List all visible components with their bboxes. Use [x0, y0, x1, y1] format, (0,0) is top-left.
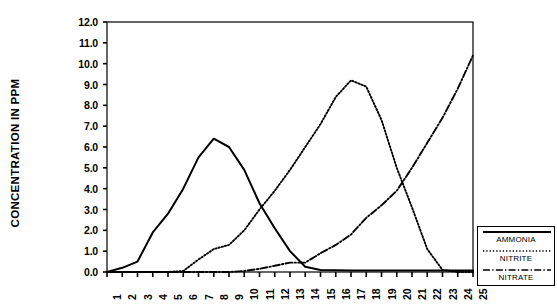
legend-label-ammonia: AMMONIA	[478, 235, 554, 244]
series-line-nitrate	[107, 55, 473, 272]
x-axis-tick-label: 2	[126, 294, 138, 300]
y-axis-tick-label: 2.0	[64, 224, 98, 236]
x-axis-tick-label: 20	[401, 288, 413, 300]
x-axis-tick-label: 23	[447, 288, 459, 300]
y-axis-tick-label: 5.0	[64, 162, 98, 174]
y-axis-tick-label: 9.0	[64, 79, 98, 91]
x-axis-tick-label: 17	[355, 288, 367, 300]
x-axis-tick-label: 24	[462, 288, 474, 300]
x-axis-tick-label: 25	[477, 288, 489, 300]
x-axis-tick-label: 22	[431, 288, 443, 300]
series-line-nitrite	[107, 80, 473, 272]
chart-container: CONCENTRATION IN PPM 0.01.02.03.04.05.06…	[0, 0, 557, 306]
y-axis-tick-label: 3.0	[64, 204, 98, 216]
x-axis-tick-label: 12	[279, 288, 291, 300]
x-axis-tick-label: 4	[157, 294, 169, 300]
x-axis-tick-label: 11	[264, 289, 276, 300]
x-axis-tick-label: 6	[187, 294, 199, 300]
x-axis-tick-label: 19	[386, 288, 398, 300]
x-axis-tick-label: 1	[111, 294, 123, 300]
y-axis-tick-label: 7.0	[64, 120, 98, 132]
x-axis-tick-label: 10	[248, 288, 260, 300]
y-axis-tick-label: 8.0	[64, 99, 98, 111]
plot-frame	[107, 22, 473, 272]
x-axis-tick-label: 13	[294, 288, 306, 300]
x-axis-tick-label: 5	[172, 294, 184, 300]
y-axis-tick-label: 1.0	[64, 245, 98, 257]
legend-label-nitrate: NITRATE	[478, 273, 554, 282]
x-axis-tick-label: 14	[309, 288, 321, 300]
chart-legend: AMMONIANITRITENITRATE	[477, 226, 555, 286]
x-axis-tick-label: 15	[325, 288, 337, 300]
x-axis-tick-label: 8	[218, 294, 230, 300]
x-axis-tick-label: 18	[370, 288, 382, 300]
legend-label-nitrite: NITRITE	[478, 254, 554, 263]
x-axis-tick-label: 16	[340, 288, 352, 300]
x-axis-tick-label: 9	[233, 294, 245, 300]
y-axis-tick-label: 12.0	[64, 16, 98, 28]
y-axis-tick-label: 11.0	[64, 37, 98, 49]
y-axis-tick-label: 0.0	[64, 266, 98, 278]
y-axis-tick-label: 4.0	[64, 183, 98, 195]
x-axis-tick-label: 21	[416, 288, 428, 300]
y-axis-tick-label: 6.0	[64, 141, 98, 153]
y-axis-tick-label: 10.0	[64, 58, 98, 70]
x-axis-tick-label: 3	[142, 294, 154, 300]
x-axis-tick-label: 7	[203, 294, 215, 300]
